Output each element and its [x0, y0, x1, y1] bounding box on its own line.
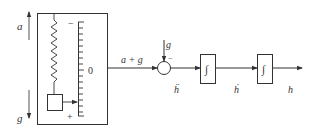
diagram-canvas: a g [0, 0, 318, 132]
scale-minus-sign: − [68, 18, 74, 29]
spring-icon [51, 14, 57, 94]
sum-minus-sign: − [168, 54, 173, 63]
block-diagram: a g [0, 0, 318, 132]
gravity-input-label: g [166, 39, 171, 50]
measurement-scale [78, 22, 84, 116]
h-output-label: h [288, 84, 293, 95]
acceleration-label: a [17, 20, 23, 32]
integral-icon: ∫ [261, 63, 266, 76]
h-ddot-label: ḧ [174, 84, 179, 95]
scale-plus-sign: + [67, 111, 73, 122]
gravity-label: g [17, 112, 23, 124]
scale-zero-label: 0 [88, 65, 93, 76]
integral-icon: ∫ [204, 63, 209, 76]
sensor-output-label: a + g [121, 54, 143, 65]
h-dot-label: ḣ [234, 84, 239, 95]
proof-mass [48, 95, 63, 111]
summing-junction [158, 62, 171, 75]
